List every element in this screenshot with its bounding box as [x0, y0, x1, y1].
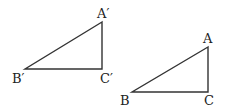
label-a-prime: A′ [96, 6, 109, 21]
similar-triangles-diagram: A′ B′ C′ A B C [0, 0, 226, 110]
label-c: C [204, 93, 214, 108]
label-c-prime: C′ [100, 71, 113, 86]
label-a: A [202, 31, 213, 46]
label-b: B [120, 93, 130, 108]
triangle-a-prime-b-prime-c-prime [25, 22, 102, 69]
label-b-prime: B′ [12, 71, 25, 86]
triangle-abc [132, 47, 208, 92]
